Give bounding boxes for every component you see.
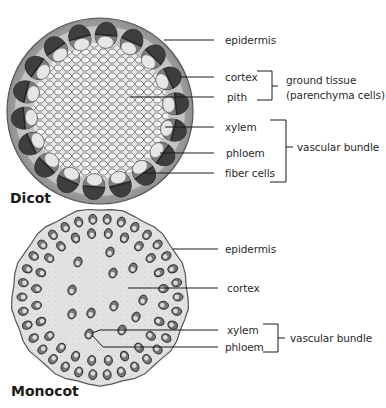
monocot-bundle [103, 369, 112, 380]
label-dicot-xylem: xylem [225, 121, 257, 133]
label-parenchyma-cells: (parenchyma cells) [286, 89, 385, 101]
bracket-mono-vascular [263, 324, 278, 352]
label-dicot-fiber-cells: fiber cells [225, 167, 275, 179]
title-dicot: Dicot [10, 190, 51, 206]
bracket-ground-tissue [257, 71, 272, 100]
monocot-bundle [88, 369, 97, 380]
monocot-epidermis [12, 210, 189, 387]
label-mono-xylem: xylem [227, 324, 259, 336]
label-dicot-cortex: cortex [225, 71, 258, 83]
monocot-bundle [88, 214, 97, 225]
label-mono-epidermis: epidermis [225, 243, 276, 255]
label-dicot-phloem: phloem [226, 147, 265, 159]
label-mono-cortex: cortex [227, 282, 260, 294]
label-mono-phloem: phloem [225, 341, 264, 353]
label-dicot-pith: pith [227, 91, 247, 103]
label-dicot-vascular-bundle: vascular bundle [297, 141, 379, 153]
monocot-bundle [103, 214, 112, 225]
label-ground-tissue: ground tissue [286, 74, 356, 86]
dicot-stem [7, 18, 193, 204]
label-dicot-epidermis: epidermis [225, 34, 276, 46]
stem-cross-section-diagram [0, 0, 386, 408]
label-mono-vascular-bundle: vascular bundle [290, 332, 372, 344]
title-monocot: Monocot [11, 383, 79, 399]
monocot-bundle [17, 293, 27, 301]
monocot-bundle [173, 293, 183, 301]
monocot-stem [12, 210, 189, 387]
